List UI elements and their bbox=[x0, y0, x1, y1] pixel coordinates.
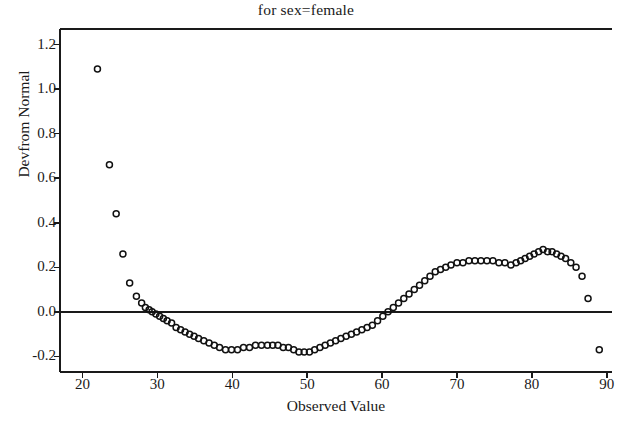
data-point bbox=[120, 251, 126, 257]
data-point bbox=[223, 347, 229, 353]
data-point bbox=[106, 162, 112, 168]
data-point bbox=[229, 347, 235, 353]
data-point bbox=[573, 264, 579, 270]
data-point bbox=[252, 342, 258, 348]
y-tick-label: -0.2 bbox=[10, 348, 56, 363]
axis-ticks bbox=[54, 45, 607, 378]
y-tick-label: 1.2 bbox=[10, 37, 56, 52]
x-axis-label: Observed Value bbox=[60, 397, 612, 415]
data-point bbox=[460, 260, 466, 266]
data-point bbox=[94, 66, 100, 72]
y-tick-label: 0.6 bbox=[10, 170, 56, 185]
data-point bbox=[127, 280, 133, 286]
data-point bbox=[390, 304, 396, 310]
x-axis-tick-labels: 2030405060708090 bbox=[0, 377, 612, 399]
x-tick-label: 30 bbox=[137, 377, 177, 392]
x-tick-label: 50 bbox=[287, 377, 327, 392]
y-tick-label: 1.0 bbox=[10, 81, 56, 96]
data-point bbox=[579, 273, 585, 279]
data-point bbox=[478, 258, 484, 264]
x-tick-label: 20 bbox=[62, 377, 102, 392]
y-tick-label: 0.4 bbox=[10, 215, 56, 230]
data-point bbox=[596, 347, 602, 353]
data-point bbox=[247, 345, 253, 351]
data-point bbox=[484, 258, 490, 264]
x-tick-label: 80 bbox=[512, 377, 552, 392]
data-point bbox=[448, 262, 454, 268]
data-point bbox=[496, 260, 502, 266]
data-point bbox=[217, 345, 223, 351]
y-tick-label: 0.8 bbox=[10, 126, 56, 141]
data-point bbox=[401, 296, 407, 302]
data-point bbox=[235, 347, 241, 353]
data-point bbox=[396, 300, 402, 306]
data-point bbox=[417, 282, 423, 288]
x-tick-label: 70 bbox=[437, 377, 477, 392]
data-point bbox=[490, 258, 496, 264]
data-point bbox=[568, 260, 574, 266]
data-point bbox=[258, 342, 264, 348]
data-point bbox=[502, 260, 508, 266]
data-point bbox=[472, 258, 478, 264]
data-point bbox=[369, 322, 375, 328]
data-point bbox=[406, 291, 412, 297]
data-point bbox=[133, 293, 139, 299]
data-point bbox=[241, 345, 247, 351]
data-point bbox=[466, 258, 472, 264]
x-tick-label: 40 bbox=[212, 377, 252, 392]
data-point bbox=[427, 273, 433, 279]
y-tick-label: 0.2 bbox=[10, 259, 56, 274]
chart-title: for sex=female bbox=[0, 1, 612, 19]
x-tick-label: 90 bbox=[587, 377, 619, 392]
data-point bbox=[113, 211, 119, 217]
data-point bbox=[585, 296, 591, 302]
data-point bbox=[380, 313, 386, 319]
data-point bbox=[411, 287, 417, 293]
data-point bbox=[422, 278, 428, 284]
data-point bbox=[375, 318, 381, 324]
data-point bbox=[454, 260, 460, 266]
y-axis-tick-labels: -0.20.00.20.40.60.81.01.2 bbox=[0, 0, 56, 427]
y-tick-label: 0.0 bbox=[10, 304, 56, 319]
plot-frame bbox=[60, 29, 612, 372]
x-tick-label: 60 bbox=[362, 377, 402, 392]
